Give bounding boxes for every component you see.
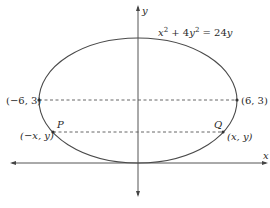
right-vertex-point xyxy=(235,98,238,101)
left-vertex-label: (−6, 3) xyxy=(6,95,41,106)
point-q xyxy=(221,130,224,133)
ellipse-equation: x2 + 4y2 = 24y xyxy=(158,26,233,38)
q-coords-label: (x, y) xyxy=(227,131,253,142)
ellipse-diagram: y x x2 + 4y2 = 24y (−6, 3) (6, 3) P Q (−… xyxy=(0,0,270,208)
y-axis-up-arrow-icon xyxy=(136,5,140,11)
x-axis-right-arrow-icon xyxy=(262,161,268,165)
x-axis-left-arrow-icon xyxy=(10,161,16,165)
p-label: P xyxy=(56,119,64,130)
p-coords-label: (−x, y) xyxy=(20,130,54,141)
q-label: Q xyxy=(214,119,222,130)
y-axis-label: y xyxy=(141,5,148,16)
right-vertex-label: (6, 3) xyxy=(241,95,268,106)
x-axis-label: x xyxy=(263,150,269,161)
y-axis xyxy=(136,5,140,197)
y-axis-down-arrow-icon xyxy=(136,191,140,197)
